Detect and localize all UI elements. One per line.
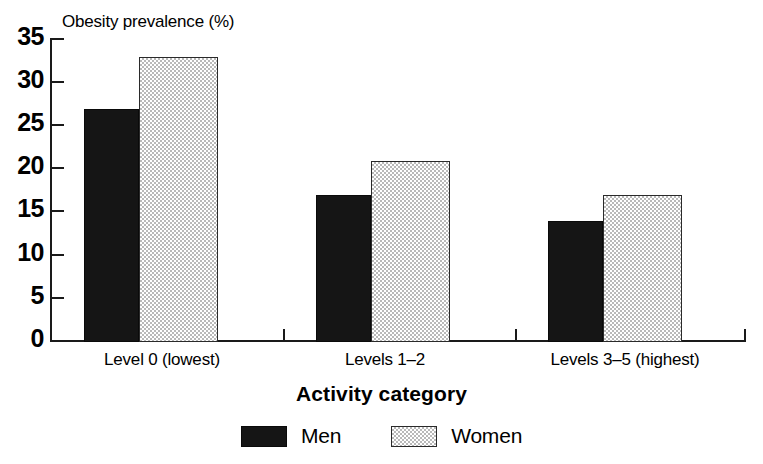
bar-men-levels12[interactable]: [316, 195, 371, 342]
y-tick-mark-25: [50, 124, 64, 126]
y-tick-mark-15: [50, 210, 64, 212]
y-tick-mark-10: [50, 254, 64, 256]
y-tick-label-15: 15: [17, 194, 44, 223]
x-axis-title: Activity category: [0, 382, 763, 406]
bar-women-levels35[interactable]: [603, 195, 682, 342]
x-tick-mark-1: [283, 329, 285, 341]
bar-men-levels35[interactable]: [548, 221, 603, 342]
y-tick-label-5: 5: [31, 281, 44, 310]
bar-chart-figure: Obesity prevalence (%) 35 30 25 20 15 10…: [0, 0, 763, 464]
gray-checkered-swatch-icon: [391, 426, 437, 447]
x-axis-end-cap: [744, 329, 746, 341]
y-tick-label-35: 35: [17, 22, 44, 51]
bar-men-level0[interactable]: [84, 109, 139, 342]
black-solid-swatch-icon: [241, 426, 287, 447]
y-axis-title: Obesity prevalence (%): [62, 12, 234, 32]
y-tick-mark-5: [50, 297, 64, 299]
chart-legend: Men Women: [0, 424, 763, 448]
y-tick-label-25: 25: [17, 108, 44, 137]
legend-item-men[interactable]: Men: [241, 424, 341, 448]
y-tick-label-20: 20: [17, 151, 44, 180]
bar-women-levels12[interactable]: [371, 161, 450, 342]
bar-women-level0[interactable]: [139, 57, 218, 342]
y-tick-mark-20: [50, 167, 64, 169]
x-tick-mark-2: [515, 329, 517, 341]
y-tick-mark-35: [50, 38, 64, 40]
x-category-label-0: Level 0 (lowest): [52, 350, 272, 370]
y-tick-label-0: 0: [31, 324, 44, 353]
y-tick-label-10: 10: [17, 238, 44, 267]
y-tick-mark-30: [50, 81, 64, 83]
x-category-label-2: Levels 3–5 (highest): [505, 350, 745, 370]
x-category-label-1: Levels 1–2: [285, 350, 485, 370]
legend-item-women[interactable]: Women: [391, 424, 522, 448]
legend-label-men: Men: [301, 424, 341, 448]
legend-label-women: Women: [451, 424, 522, 448]
y-tick-label-30: 30: [17, 65, 44, 94]
